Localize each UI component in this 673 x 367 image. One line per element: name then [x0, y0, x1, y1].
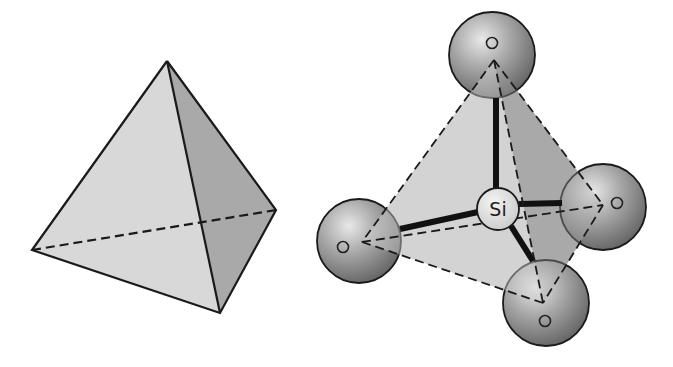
silicon-atom: Si — [477, 188, 519, 230]
bond-right — [519, 203, 562, 204]
silicon-label: Si — [489, 198, 506, 220]
silicate-tetrahedron: Si — [317, 12, 646, 346]
diagram-canvas: Si — [0, 0, 673, 367]
tetrahedron — [32, 61, 276, 313]
